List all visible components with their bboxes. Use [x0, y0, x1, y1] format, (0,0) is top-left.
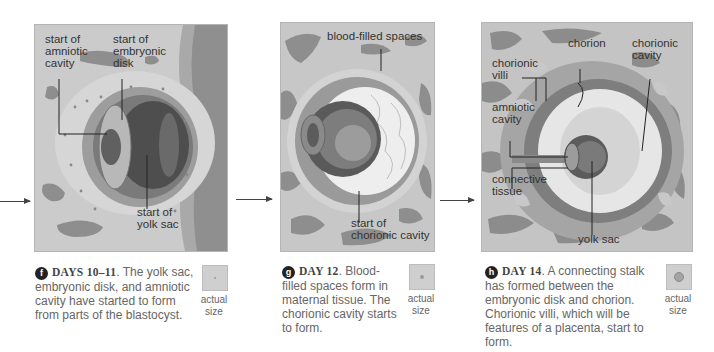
step-badge-g: g: [282, 266, 295, 279]
actual-size-label-g: actual size: [401, 293, 441, 317]
actual-size-box-h: [666, 264, 692, 290]
sequence-arrow-f-to-g: [236, 199, 272, 200]
actual-size-dot-h: [674, 272, 684, 282]
actual-size-label-f: actual size: [194, 294, 234, 318]
label-start-of-chorionic-cavity: start of chorionic cavity: [351, 217, 430, 241]
label-blood-filled-spaces: blood-filled spaces: [327, 30, 422, 42]
step-badge-f: f: [35, 267, 48, 280]
panel-f-illustration: start of amniotic cavity start of embryo…: [34, 24, 228, 252]
sequence-arrow-g-to-h: [440, 200, 474, 201]
sequence-arrow-in: [0, 201, 30, 202]
actual-size-label-h: actual size: [658, 293, 698, 317]
panel-h-illustration: chorion chorionic cavity chorionic villi…: [481, 22, 693, 252]
actual-size-dot-g: [420, 275, 424, 279]
day-label-h: DAY 14: [502, 265, 542, 277]
day-label-f: DAYS 10–11: [52, 266, 116, 278]
day-label-g: DAY 12: [299, 265, 339, 277]
actual-size-box-g: [409, 264, 435, 290]
step-badge-h: h: [485, 266, 498, 279]
label-chorion: chorion: [568, 37, 606, 49]
label-chorionic-cavity: chorionic cavity: [632, 37, 678, 61]
panel-g-illustration: blood-filled spaces start of chorionic c…: [280, 22, 435, 252]
label-start-of-embryonic-disk: start of embryonic disk: [113, 33, 166, 69]
panel-g-caption: gDAY 12. Blood-filled spaces form in mat…: [282, 264, 404, 335]
label-connective-tissue: connective tissue: [492, 173, 547, 197]
actual-size-dot-f: [214, 277, 216, 279]
panel-f-caption: fDAYS 10–11. The yolk sac, embryonic dis…: [35, 265, 195, 322]
actual-size-box-f: [202, 265, 228, 291]
label-start-of-amniotic-cavity: start of amniotic cavity: [45, 33, 88, 69]
label-yolk-sac: yolk sac: [578, 233, 620, 245]
panel-h-caption: hDAY 14. A connecting stalk has formed b…: [485, 264, 665, 349]
label-chorionic-villi: chorionic villi: [492, 57, 538, 81]
label-amniotic-cavity: amniotic cavity: [492, 101, 535, 125]
label-start-of-yolk-sac: start of yolk sac: [137, 206, 179, 230]
